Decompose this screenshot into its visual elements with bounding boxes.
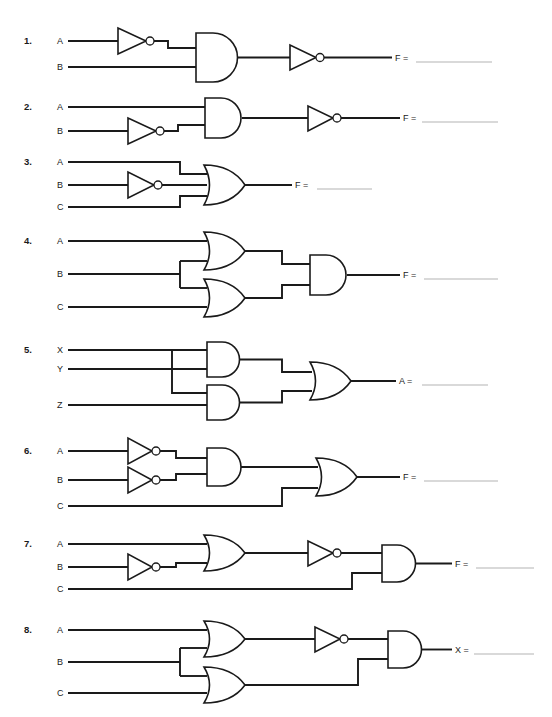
- not-gate-mid: [315, 627, 348, 652]
- input-label-c: C: [57, 501, 64, 511]
- problem-1: 1. A B F =: [24, 28, 492, 82]
- problem-3: 3. A B C F =: [24, 156, 372, 212]
- or-gate-bottom: [204, 279, 245, 317]
- wire-or-bottom-to-and: [245, 285, 310, 298]
- wire-not-to-and: [164, 125, 205, 131]
- or-gate-1: [204, 165, 245, 205]
- problem-8: 8. A B C X =: [24, 621, 534, 703]
- wire-c-input: [68, 196, 207, 207]
- input-label-a: A: [57, 102, 63, 112]
- wire-x-branch: [172, 350, 207, 393]
- or-gate-1: [204, 535, 245, 571]
- logic-circuits-worksheet: 1. A B F = 2. A B: [0, 0, 552, 717]
- or-gate-1: [310, 362, 351, 400]
- and-gate-1: [196, 33, 237, 82]
- and-gate-top: [207, 342, 240, 377]
- and-gate-bottom: [207, 385, 240, 420]
- or-gate-bottom: [204, 667, 245, 703]
- input-label-c: C: [57, 584, 64, 594]
- or-gate-top: [204, 621, 245, 657]
- wire-or-bottom-to-and: [245, 659, 388, 685]
- input-label-b: B: [57, 62, 63, 72]
- and-gate-1: [205, 98, 241, 138]
- input-label-a: A: [57, 539, 63, 549]
- output-label: F =: [403, 113, 416, 123]
- not-gate-b: [128, 554, 160, 580]
- output-label: A =: [399, 376, 412, 386]
- wire-not-to-and: [154, 41, 196, 48]
- problem-number: 4.: [24, 235, 32, 246]
- problem-number: 3.: [24, 156, 32, 167]
- problem-number: 2.: [24, 101, 32, 112]
- input-label-c: C: [57, 302, 64, 312]
- problem-number: 7.: [24, 538, 32, 549]
- wire-not-to-or: [160, 563, 207, 567]
- wire-c-input: [68, 573, 382, 589]
- problem-number: 1.: [24, 35, 32, 46]
- output-label: F =: [295, 180, 308, 190]
- input-label-b: B: [57, 562, 63, 572]
- input-label-a: A: [57, 625, 63, 635]
- not-gate-output: [290, 45, 324, 70]
- and-gate-1: [310, 255, 346, 295]
- problem-6: 6. A B C F =: [24, 438, 498, 511]
- not-gate-b: [128, 172, 162, 198]
- output-label: F =: [403, 472, 416, 482]
- input-label-b: B: [57, 269, 63, 279]
- not-gate-b: [128, 118, 164, 144]
- and-gate-1: [388, 631, 422, 668]
- input-label-b: B: [57, 657, 63, 667]
- wire-c-input: [68, 488, 318, 506]
- input-label-x: X: [57, 345, 63, 355]
- wire-not-a-to-and: [160, 451, 207, 458]
- problem-number: 8.: [24, 624, 32, 635]
- input-label-c: C: [57, 202, 64, 212]
- problem-2: 2. A B F =: [24, 98, 498, 144]
- output-label: F =: [403, 270, 416, 280]
- output-label: F =: [455, 559, 468, 569]
- output-label: X =: [455, 645, 469, 655]
- problem-number: 5.: [24, 344, 32, 355]
- or-gate-top: [204, 232, 245, 270]
- not-gate-a: [118, 28, 154, 54]
- wire-a-input: [68, 162, 207, 174]
- input-label-a: A: [57, 157, 63, 167]
- not-gate-a: [128, 438, 160, 464]
- input-label-b: B: [57, 126, 63, 136]
- input-label-a: A: [57, 446, 63, 456]
- problem-4: 4. A B C F =: [24, 232, 498, 317]
- input-label-b: B: [57, 180, 63, 190]
- not-gate-output: [308, 106, 341, 131]
- input-label-z: Z: [57, 400, 63, 410]
- wire-not-b-to-and: [160, 474, 207, 480]
- or-gate-1: [316, 458, 357, 496]
- and-gate-1: [207, 448, 241, 486]
- input-label-a: A: [57, 36, 63, 46]
- wire-and-top-to-or: [240, 360, 312, 373]
- problem-7: 7. A B C F =: [24, 535, 534, 594]
- input-label-c: C: [57, 688, 64, 698]
- not-gate-mid: [308, 541, 341, 566]
- output-label: F =: [395, 53, 408, 63]
- problem-number: 6.: [24, 445, 32, 456]
- not-gate-b: [128, 467, 160, 493]
- input-label-y: Y: [57, 364, 63, 374]
- and-gate-1: [382, 545, 416, 582]
- problem-5: 5. X Y Z A =: [24, 342, 488, 420]
- input-label-a: A: [57, 236, 63, 246]
- wire-and-bottom-to-or: [240, 391, 312, 403]
- input-label-b: B: [57, 475, 63, 485]
- wire-or-top-to-and: [245, 251, 310, 264]
